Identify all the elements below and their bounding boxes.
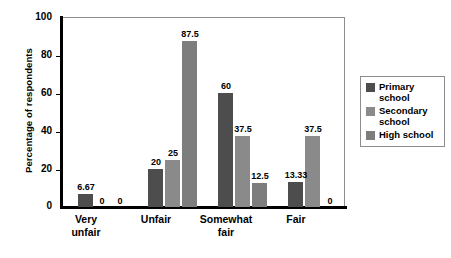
y-tick-label-20: 20 <box>18 164 52 174</box>
bar-unfair-primary-school[interactable] <box>148 169 163 207</box>
bar-somewhat-fair-primary-school[interactable] <box>218 93 233 207</box>
x-category-label-very-unfair-line2: unfair <box>43 226 129 239</box>
x-category-label-fair: Fair <box>253 213 339 226</box>
bar-value-somewhat-fair-high-school: 12.5 <box>240 172 280 181</box>
chart-legend: Primary school Secondary school High sch… <box>360 76 445 147</box>
bar-unfair-high-school[interactable] <box>182 41 197 207</box>
bar-somewhat-fair-high-school[interactable] <box>252 183 267 207</box>
legend-label-secondary-school-line2: school <box>379 116 410 127</box>
bar-fair-primary-school[interactable] <box>288 182 303 207</box>
bar-value-unfair-primary-school: 20 <box>136 158 176 167</box>
bar-group-somewhat-fair: 60 37.5 12.5 <box>214 17 276 207</box>
legend-item-primary-school[interactable]: Primary school <box>366 82 440 103</box>
bar-value-fair-secondary-school: 37.5 <box>293 125 333 134</box>
bar-value-very-unfair-primary-school: 6.67 <box>66 183 106 192</box>
bar-group-unfair: 20 25 87.5 <box>144 17 206 207</box>
legend-label-primary-school: Primary school <box>379 82 414 103</box>
legend-label-primary-school-line1: Primary <box>379 81 414 92</box>
bar-value-very-unfair-high-school: 0 <box>100 197 140 206</box>
legend-label-secondary-school-line1: Secondary <box>379 105 428 116</box>
bar-value-unfair-secondary-school: 25 <box>153 149 193 158</box>
legend-label-primary-school-line2: school <box>379 92 410 103</box>
y-tick-label-80: 80 <box>18 50 52 60</box>
legend-swatch-high-school-icon <box>366 131 375 140</box>
legend-label-high-school: High school <box>379 130 433 141</box>
x-category-label-fair-line1: Fair <box>253 213 339 226</box>
y-tick-label-60: 60 <box>18 88 52 98</box>
legend-swatch-secondary-school-icon <box>366 107 375 116</box>
bar-group-very-unfair: 6.67 0 0 <box>74 17 136 207</box>
bar-group-fair: 13.33 37.5 0 <box>284 17 346 207</box>
legend-item-high-school[interactable]: High school <box>366 130 440 141</box>
y-tick-label-0: 0 <box>18 201 52 211</box>
grouped-bar-chart: Percentage of respondents 100 80 60 40 2… <box>0 0 451 258</box>
bar-value-fair-high-school: 0 <box>310 197 350 206</box>
y-tick-label-100: 100 <box>18 12 52 22</box>
legend-label-secondary-school: Secondary school <box>379 106 428 127</box>
bar-value-somewhat-fair-primary-school: 60 <box>206 82 246 91</box>
legend-item-secondary-school[interactable]: Secondary school <box>366 106 440 127</box>
legend-swatch-primary-school-icon <box>366 83 375 92</box>
x-category-label-somewhat-fair-line2: fair <box>183 226 269 239</box>
bar-value-unfair-high-school: 87.5 <box>170 30 210 39</box>
y-tick-label-40: 40 <box>18 126 52 136</box>
bar-value-somewhat-fair-secondary-school: 37.5 <box>223 125 263 134</box>
legend-label-high-school-line1: High school <box>379 129 433 140</box>
bar-value-fair-primary-school: 13.33 <box>276 171 316 180</box>
bars-layer: 6.67 0 0 20 25 87.5 60 37.5 12.5 13.33 <box>62 17 345 207</box>
